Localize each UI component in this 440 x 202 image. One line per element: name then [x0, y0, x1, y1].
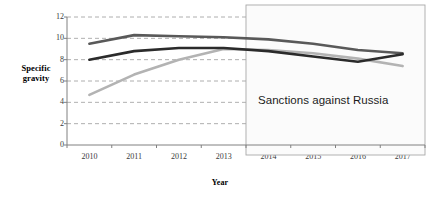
sanctions-annotation-label: Sanctions against Russia	[258, 94, 388, 107]
sanctions-highlight-box	[246, 5, 425, 155]
chart-container: Specific gravity 024681012 2010201120122…	[0, 0, 440, 202]
